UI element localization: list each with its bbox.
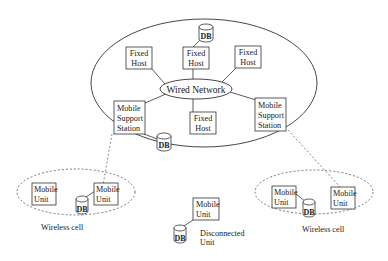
svg-text:DB: DB xyxy=(76,205,88,214)
mobile-unit-right-1: Mobile Unit xyxy=(272,186,298,208)
svg-text:Support: Support xyxy=(117,114,144,123)
wired-network-label: Wired Network xyxy=(167,85,226,95)
mobile-unit-left-1: Mobile Unit xyxy=(32,183,58,205)
db-icon-msc-left: DB xyxy=(157,133,171,151)
fixed-host-2: Fixed Host xyxy=(183,47,209,69)
wireless-cell-left-label: Wireless cell xyxy=(41,223,84,232)
svg-text:Fixed: Fixed xyxy=(194,114,213,123)
svg-text:Unit: Unit xyxy=(274,198,289,207)
svg-text:Host: Host xyxy=(240,58,256,67)
svg-text:Host: Host xyxy=(131,59,147,68)
mobile-unit-right-2: Mobile Unit xyxy=(331,187,357,209)
mobile-support-station-right: Mobile Support Station xyxy=(255,98,286,131)
svg-text:DB: DB xyxy=(158,141,170,150)
mobile-support-station-left: Mobile Support Station xyxy=(114,101,145,134)
svg-text:Station: Station xyxy=(258,121,281,130)
svg-text:Mobile: Mobile xyxy=(258,101,282,110)
mobile-unit-left-2: Mobile Unit xyxy=(94,183,120,205)
svg-text:Unit: Unit xyxy=(196,210,211,219)
svg-text:Unit: Unit xyxy=(333,199,348,208)
svg-text:DB: DB xyxy=(174,234,186,243)
svg-text:Host: Host xyxy=(188,59,204,68)
fixed-host-1: Fixed Host xyxy=(126,47,152,69)
fixed-host-4: Fixed Host xyxy=(190,112,216,134)
disconnected-unit-label-1: Disconnected xyxy=(200,229,245,238)
db-icon-right-cell: DB xyxy=(303,199,315,217)
svg-text:Mobile: Mobile xyxy=(34,185,58,194)
fixed-host-3: Fixed Host xyxy=(235,46,261,68)
db-icon-disconnected: DB xyxy=(174,225,186,243)
db-icon-top: DB xyxy=(199,24,213,42)
svg-text:DB: DB xyxy=(200,32,212,41)
db-icon-left-cell: DB xyxy=(76,196,88,214)
wired-network-node: Wired Network xyxy=(160,79,232,99)
svg-text:Mobile: Mobile xyxy=(117,104,141,113)
svg-text:Unit: Unit xyxy=(96,195,111,204)
svg-text:Mobile: Mobile xyxy=(333,189,357,198)
svg-text:Fixed: Fixed xyxy=(239,48,258,57)
svg-text:Fixed: Fixed xyxy=(130,49,149,58)
svg-text:Mobile: Mobile xyxy=(196,200,220,209)
disconnected-unit-label-2: Unit xyxy=(200,238,215,247)
mobile-unit-disconnected: Mobile Unit xyxy=(193,198,220,220)
wireless-cell-right-label: Wireless cell xyxy=(302,225,345,234)
svg-text:Host: Host xyxy=(195,124,211,133)
svg-text:Unit: Unit xyxy=(34,195,49,204)
mobile-database-architecture-diagram: Wired Network Fixed Host Fixed Host Fixe… xyxy=(0,0,388,261)
wireless-links xyxy=(103,130,341,188)
svg-text:Mobile: Mobile xyxy=(274,188,298,197)
svg-text:Fixed: Fixed xyxy=(187,49,206,58)
svg-text:Support: Support xyxy=(258,111,285,120)
svg-text:Station: Station xyxy=(117,124,140,133)
svg-text:Mobile: Mobile xyxy=(96,185,120,194)
svg-text:DB: DB xyxy=(303,208,315,217)
